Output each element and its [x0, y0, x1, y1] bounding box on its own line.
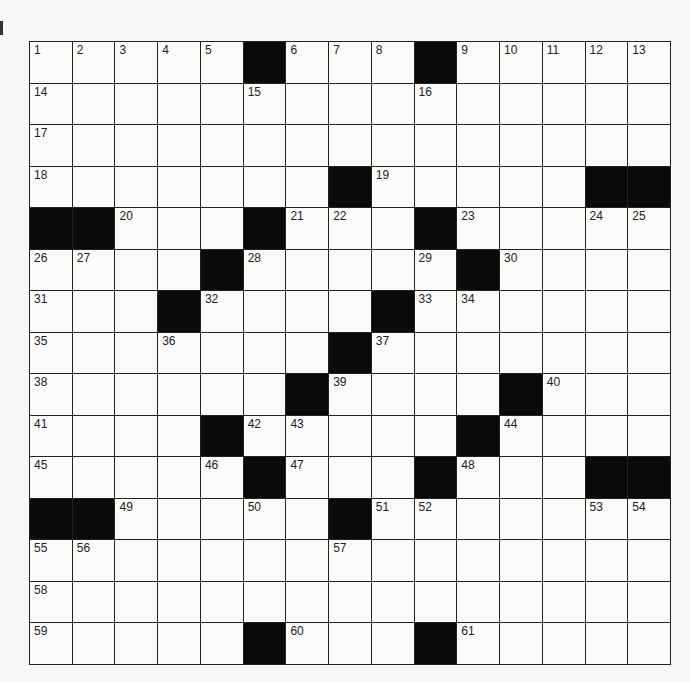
- grid-cell[interactable]: [586, 374, 628, 415]
- grid-cell[interactable]: 9: [457, 42, 499, 83]
- grid-cell[interactable]: [158, 374, 200, 415]
- grid-cell[interactable]: [201, 582, 243, 623]
- grid-cell[interactable]: [158, 416, 200, 457]
- grid-cell[interactable]: [115, 457, 157, 498]
- grid-cell[interactable]: [586, 540, 628, 581]
- grid-cell[interactable]: 39: [329, 374, 371, 415]
- grid-cell[interactable]: [628, 582, 670, 623]
- grid-cell[interactable]: [586, 333, 628, 374]
- grid-cell[interactable]: [500, 582, 542, 623]
- grid-cell[interactable]: 28: [244, 250, 286, 291]
- grid-cell[interactable]: [500, 125, 542, 166]
- grid-cell[interactable]: 1: [30, 42, 72, 83]
- grid-cell[interactable]: 20: [115, 208, 157, 249]
- grid-cell[interactable]: 7: [329, 42, 371, 83]
- grid-cell[interactable]: [457, 582, 499, 623]
- grid-cell[interactable]: [286, 250, 328, 291]
- grid-cell[interactable]: [244, 333, 286, 374]
- grid-cell[interactable]: 4: [158, 42, 200, 83]
- grid-cell[interactable]: [158, 250, 200, 291]
- grid-cell[interactable]: [115, 374, 157, 415]
- grid-cell[interactable]: 47: [286, 457, 328, 498]
- grid-cell[interactable]: [115, 250, 157, 291]
- grid-cell[interactable]: [415, 333, 457, 374]
- grid-cell[interactable]: [628, 291, 670, 332]
- grid-cell[interactable]: 18: [30, 167, 72, 208]
- grid-cell[interactable]: [415, 374, 457, 415]
- grid-cell[interactable]: 16: [415, 84, 457, 125]
- grid-cell[interactable]: 31: [30, 291, 72, 332]
- grid-cell[interactable]: [457, 499, 499, 540]
- grid-cell[interactable]: [244, 125, 286, 166]
- grid-cell[interactable]: [543, 291, 585, 332]
- grid-cell[interactable]: [628, 374, 670, 415]
- grid-cell[interactable]: 44: [500, 416, 542, 457]
- grid-cell[interactable]: [329, 291, 371, 332]
- grid-cell[interactable]: [543, 333, 585, 374]
- grid-cell[interactable]: [372, 84, 414, 125]
- grid-cell[interactable]: [543, 499, 585, 540]
- grid-cell[interactable]: [158, 84, 200, 125]
- grid-cell[interactable]: [286, 167, 328, 208]
- grid-cell[interactable]: [500, 623, 542, 664]
- grid-cell[interactable]: [73, 374, 115, 415]
- grid-cell[interactable]: 5: [201, 42, 243, 83]
- grid-cell[interactable]: [586, 623, 628, 664]
- grid-cell[interactable]: [73, 416, 115, 457]
- grid-cell[interactable]: 41: [30, 416, 72, 457]
- grid-cell[interactable]: [115, 623, 157, 664]
- grid-cell[interactable]: [201, 84, 243, 125]
- grid-cell[interactable]: 27: [73, 250, 115, 291]
- grid-cell[interactable]: 54: [628, 499, 670, 540]
- grid-cell[interactable]: [372, 208, 414, 249]
- grid-cell[interactable]: [628, 333, 670, 374]
- grid-cell[interactable]: 55: [30, 540, 72, 581]
- grid-cell[interactable]: [329, 457, 371, 498]
- grid-cell[interactable]: [586, 582, 628, 623]
- grid-cell[interactable]: [73, 623, 115, 664]
- grid-cell[interactable]: [372, 582, 414, 623]
- grid-cell[interactable]: 58: [30, 582, 72, 623]
- grid-cell[interactable]: [415, 582, 457, 623]
- grid-cell[interactable]: [628, 540, 670, 581]
- grid-cell[interactable]: 36: [158, 333, 200, 374]
- grid-cell[interactable]: [415, 540, 457, 581]
- grid-cell[interactable]: [543, 250, 585, 291]
- grid-cell[interactable]: [457, 84, 499, 125]
- grid-cell[interactable]: [73, 457, 115, 498]
- grid-cell[interactable]: [158, 540, 200, 581]
- grid-cell[interactable]: [115, 416, 157, 457]
- grid-cell[interactable]: 42: [244, 416, 286, 457]
- grid-cell[interactable]: 50: [244, 499, 286, 540]
- grid-cell[interactable]: [543, 208, 585, 249]
- grid-cell[interactable]: [244, 291, 286, 332]
- grid-cell[interactable]: 51: [372, 499, 414, 540]
- grid-cell[interactable]: 32: [201, 291, 243, 332]
- grid-cell[interactable]: [201, 540, 243, 581]
- grid-cell[interactable]: [244, 582, 286, 623]
- grid-cell[interactable]: [586, 416, 628, 457]
- grid-cell[interactable]: [628, 416, 670, 457]
- grid-cell[interactable]: [586, 291, 628, 332]
- grid-cell[interactable]: 53: [586, 499, 628, 540]
- grid-cell[interactable]: [158, 623, 200, 664]
- grid-cell[interactable]: [457, 125, 499, 166]
- grid-cell[interactable]: [628, 125, 670, 166]
- grid-cell[interactable]: [372, 416, 414, 457]
- grid-cell[interactable]: [286, 582, 328, 623]
- grid-cell[interactable]: [73, 582, 115, 623]
- grid-cell[interactable]: 25: [628, 208, 670, 249]
- grid-cell[interactable]: [73, 291, 115, 332]
- grid-cell[interactable]: [543, 582, 585, 623]
- grid-cell[interactable]: [628, 250, 670, 291]
- grid-cell[interactable]: [201, 208, 243, 249]
- grid-cell[interactable]: 46: [201, 457, 243, 498]
- grid-cell[interactable]: [329, 416, 371, 457]
- grid-cell[interactable]: 22: [329, 208, 371, 249]
- grid-cell[interactable]: 45: [30, 457, 72, 498]
- grid-cell[interactable]: [115, 84, 157, 125]
- grid-cell[interactable]: [201, 167, 243, 208]
- grid-cell[interactable]: [201, 623, 243, 664]
- grid-cell[interactable]: [457, 540, 499, 581]
- grid-cell[interactable]: 49: [115, 499, 157, 540]
